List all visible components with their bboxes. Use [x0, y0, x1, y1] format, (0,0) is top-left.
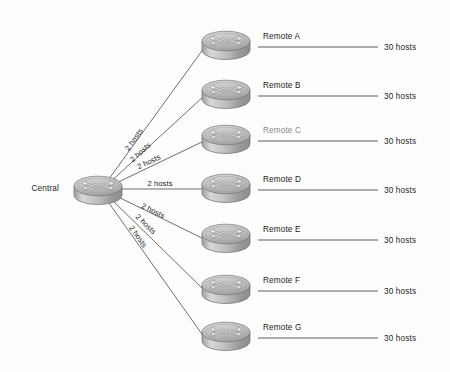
remote-router-a[interactable]: [202, 31, 250, 59]
remote-router-c[interactable]: [202, 125, 250, 153]
router-icon: [74, 176, 122, 204]
remote-b-label: Remote B: [263, 81, 301, 90]
remote-f-label: Remote F: [263, 276, 300, 285]
router-icon: [202, 174, 250, 202]
remote-router-b[interactable]: [202, 80, 250, 108]
hosts-label-d: 30 hosts: [384, 186, 416, 195]
remote-g-label: Remote G: [263, 323, 302, 332]
link-label-d: 2 hosts: [147, 179, 172, 188]
remote-router-e[interactable]: [202, 224, 250, 252]
hosts-label-e: 30 hosts: [384, 236, 416, 245]
central-router-node[interactable]: [74, 176, 122, 204]
hosts-label-c: 30 hosts: [384, 137, 416, 146]
router-icon: [202, 31, 250, 59]
central-router-label: Central: [32, 184, 59, 193]
router-icon: [202, 80, 250, 108]
hosts-label-a: 30 hosts: [384, 43, 416, 52]
link-central-remote-g: [104, 196, 204, 337]
remote-e-label: Remote E: [263, 225, 301, 234]
hosts-label-b: 30 hosts: [384, 92, 416, 101]
remote-router-g[interactable]: [202, 322, 250, 350]
host-lines-group: [258, 47, 378, 338]
diagram-canvas: Central Remote A Remote B Remote C Remot…: [0, 0, 450, 372]
router-icon: [202, 125, 250, 153]
remote-router-f[interactable]: [202, 275, 250, 303]
network-diagram: Central Remote A Remote B Remote C Remot…: [0, 0, 450, 372]
remote-d-label: Remote D: [263, 175, 301, 184]
remote-c-label: Remote C: [263, 126, 301, 135]
link-central-remote-b: [107, 96, 204, 185]
remote-router-d[interactable]: [202, 174, 250, 202]
hosts-label-g: 30 hosts: [384, 334, 416, 343]
router-icon: [202, 224, 250, 252]
hosts-label-f: 30 hosts: [384, 287, 416, 296]
remote-a-label: Remote A: [263, 32, 301, 41]
router-icon: [202, 322, 250, 350]
router-icon: [202, 275, 250, 303]
